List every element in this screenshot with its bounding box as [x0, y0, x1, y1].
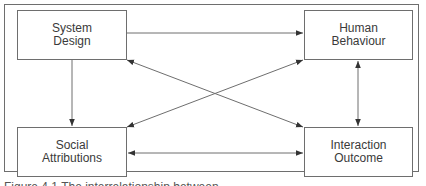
node-label-line2: Design — [53, 35, 90, 48]
node-social-attributions: Social Attributions — [17, 127, 127, 177]
node-label-line2: Attributions — [42, 152, 102, 165]
node-interaction-outcome: Interaction Outcome — [304, 127, 413, 177]
node-label-line2: Behaviour — [331, 35, 385, 48]
node-human-behaviour: Human Behaviour — [304, 10, 413, 60]
figure-caption: Figure 4.1 The interrelationship between — [4, 180, 219, 186]
node-label-line2: Outcome — [334, 152, 383, 165]
node-system-design: System Design — [17, 10, 127, 60]
